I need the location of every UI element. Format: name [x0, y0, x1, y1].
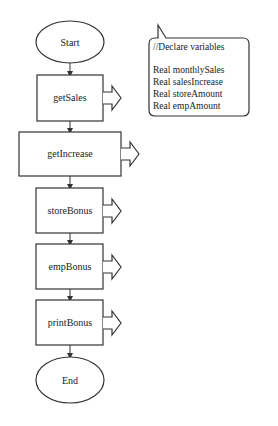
step-label: getSales: [53, 92, 86, 103]
process-printbonus: printBonus: [36, 300, 121, 345]
note-line: Real salesIncrease: [153, 77, 223, 87]
step-label: getIncrease: [47, 148, 93, 159]
start-terminal: Start: [36, 21, 104, 63]
module-call-arrow-icon: [103, 255, 121, 279]
declaration-note: //Declare variables Real monthlySales Re…: [149, 25, 249, 116]
step-label: printBonus: [48, 317, 93, 328]
process-getsales: getSales: [37, 75, 121, 121]
process-empbonus: empBonus: [36, 244, 121, 289]
end-label: End: [62, 375, 78, 386]
module-call-arrow-icon: [103, 199, 121, 223]
note-line: //Declare variables: [153, 42, 225, 52]
process-storebonus: storeBonus: [36, 188, 121, 233]
flowchart-canvas: Start getSales getIncrease storeBonus em…: [0, 0, 278, 426]
start-label: Start: [61, 37, 80, 48]
note-line: Real monthlySales: [153, 65, 225, 75]
step-label: storeBonus: [48, 205, 93, 216]
module-call-arrow-icon: [103, 311, 121, 335]
module-call-arrow-icon: [103, 86, 121, 110]
note-line: Real empAmount: [153, 101, 221, 111]
module-call-arrow-icon: [121, 142, 139, 166]
step-label: empBonus: [49, 261, 92, 272]
end-terminal: End: [36, 357, 104, 403]
note-line: Real storeAmount: [153, 89, 223, 99]
process-getincrease: getIncrease: [19, 132, 139, 176]
